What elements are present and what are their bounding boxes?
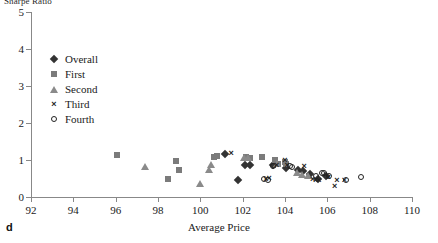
- y-tick-label: 2: [2, 118, 24, 128]
- x-tick: [327, 197, 328, 202]
- legend-label: First: [65, 67, 85, 81]
- data-point-fourth: [270, 163, 276, 169]
- x-tick: [285, 197, 286, 202]
- x-tick-label: 100: [180, 204, 220, 216]
- data-point-first: [173, 158, 179, 164]
- scatter-chart: Sharpe Ratio 012345 92949698100102104106…: [0, 0, 438, 243]
- x-tick-label: 104: [265, 204, 305, 216]
- data-point-third: ×: [227, 149, 235, 157]
- y-tick-label: 1: [2, 155, 24, 165]
- data-point-third: ×: [300, 162, 308, 170]
- data-point-first: [214, 153, 220, 159]
- data-point-overall: [246, 161, 254, 169]
- x-tick-label: 92: [11, 204, 51, 216]
- legend-label: Second: [65, 82, 97, 96]
- x-tick: [158, 197, 159, 202]
- x-axis-line: [31, 197, 412, 198]
- x-tick: [73, 197, 74, 202]
- x-tick-label: 98: [138, 204, 178, 216]
- y-tick-label: 0: [2, 192, 24, 202]
- x-tick: [412, 197, 413, 202]
- data-point-first: [114, 152, 120, 158]
- panel-label: d: [6, 221, 13, 233]
- x-axis-title: Average Price: [0, 221, 438, 233]
- x-tick-label: 110: [392, 204, 432, 216]
- y-tick-label: 3: [2, 81, 24, 91]
- data-point-first: [259, 154, 265, 160]
- data-point-overall: [234, 176, 242, 184]
- x-tick-label: 96: [96, 204, 136, 216]
- x-tick: [243, 197, 244, 202]
- data-point-fourth: [313, 173, 319, 179]
- x-tick-label: 102: [223, 204, 263, 216]
- data-point-fourth: [358, 174, 364, 180]
- y-tick-label: 5: [2, 7, 24, 17]
- x-tick-label: 108: [350, 204, 390, 216]
- square-marker-icon: [51, 71, 57, 77]
- data-point-first: [165, 176, 171, 182]
- chart-title: Sharpe Ratio: [4, 0, 52, 6]
- data-point-second: [196, 180, 204, 187]
- x-tick-label: 94: [53, 204, 93, 216]
- data-point-second: [207, 161, 215, 168]
- x-tick: [370, 197, 371, 202]
- x-tick: [200, 197, 201, 202]
- x-tick-label: 106: [307, 204, 347, 216]
- legend-label: Overall: [65, 52, 98, 66]
- data-point-second: [141, 163, 149, 170]
- data-point-fourth: [265, 177, 271, 183]
- x-tick: [116, 197, 117, 202]
- legend-label: Third: [65, 97, 89, 111]
- circle-marker-icon: [51, 116, 57, 122]
- data-point-fourth: [343, 177, 349, 183]
- x-tick: [31, 197, 32, 202]
- triangle-marker-icon: [50, 86, 58, 93]
- legend-label: Fourth: [65, 112, 94, 126]
- data-point-second: [244, 154, 252, 161]
- y-tick-label: 4: [2, 44, 24, 54]
- data-point-first: [176, 167, 182, 173]
- cross-marker-icon: ×: [50, 100, 58, 108]
